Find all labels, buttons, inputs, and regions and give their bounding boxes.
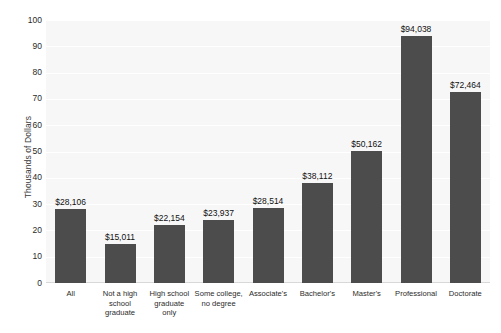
bar [154, 225, 185, 283]
x-tick-label: Bachelor's [290, 289, 344, 299]
bar [450, 92, 481, 283]
bar-value-label: $50,162 [345, 140, 389, 149]
bar-value-label: $38,112 [295, 172, 339, 181]
bar [401, 36, 432, 283]
bar [105, 244, 136, 283]
y-tick-label: 10 [4, 252, 42, 261]
y-tick-label: 20 [4, 226, 42, 235]
bar-value-label: $28,514 [246, 197, 290, 206]
y-tick-label: 30 [4, 200, 42, 209]
y-tick-label: 70 [4, 94, 42, 103]
bar-value-label: $23,937 [197, 209, 241, 218]
bar-value-label: $22,154 [147, 214, 191, 223]
x-tick-label: High school graduate only [142, 289, 196, 318]
bar [351, 151, 382, 283]
x-tick-label: Some college, no degree [192, 289, 246, 308]
bar-chart: Thousands of Dollars 1009080706050403020… [0, 0, 501, 333]
x-tick-label: Doctorate [438, 289, 492, 299]
gridline [46, 20, 490, 21]
x-tick-label: Associate's [241, 289, 295, 299]
y-tick-label: 100 [4, 16, 42, 25]
bar-value-label: $72,464 [443, 81, 487, 90]
y-tick-label: 50 [4, 147, 42, 156]
bar [55, 209, 86, 283]
y-tick-label: 80 [4, 68, 42, 77]
y-tick-label: 40 [4, 173, 42, 182]
y-tick-label: 0 [4, 279, 42, 288]
y-tick-label: 60 [4, 121, 42, 130]
x-tick-label: Not a high school graduate [93, 289, 147, 318]
x-tick-label: Master's [340, 289, 394, 299]
bar-value-label: $94,038 [394, 25, 438, 34]
bar [203, 220, 234, 283]
x-tick-label: All [44, 289, 98, 299]
bar [253, 208, 284, 283]
bar-value-label: $28,106 [49, 198, 93, 207]
bar-value-label: $15,011 [98, 233, 142, 242]
plot-area [46, 20, 490, 283]
x-tick-label: Professional [389, 289, 443, 299]
y-tick-label: 90 [4, 42, 42, 51]
bar [302, 183, 333, 283]
